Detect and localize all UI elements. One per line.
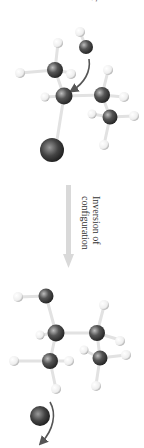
- reactant-bonds: [20, 32, 134, 145]
- reaction-arrow-head-icon: [63, 254, 74, 268]
- reaction-arrow-shaft: [66, 185, 71, 255]
- reaction-arrow: [63, 185, 74, 268]
- reaction-arrow-label: Inversion of configuration: [80, 196, 102, 250]
- hydrogen-atom: [51, 384, 61, 394]
- hydrogen-atom: [36, 331, 45, 340]
- hydrogen-atom: [115, 336, 125, 346]
- hydrogen-atom: [121, 350, 131, 360]
- molecule-diagram: [0, 0, 144, 448]
- central-carbon-atom: [48, 325, 65, 342]
- reactant-molecule: [15, 27, 139, 162]
- hydrogen-atom: [80, 346, 89, 355]
- carbon-atom: [94, 87, 110, 103]
- partial-caption-text: r: [90, 0, 101, 1]
- hydrogen-atom: [64, 356, 74, 366]
- product-bonds: [14, 296, 126, 389]
- central-carbon-atom: [56, 88, 73, 105]
- hydrogen-atom: [129, 111, 139, 121]
- hydrogen-atom: [99, 300, 109, 310]
- hydroxyl-hydrogen-atom: [13, 292, 23, 302]
- hydrogen-atom: [88, 110, 97, 119]
- leaving-group-atom: [40, 138, 64, 162]
- reaction-arrow-label-line2: configuration: [80, 196, 91, 250]
- hydrogen-atom: [99, 140, 109, 150]
- hydrogen-atom: [119, 92, 129, 102]
- carbon-atom: [103, 110, 118, 125]
- hydrogen-atom: [41, 93, 50, 102]
- hydroxyl-oxygen-atom: [39, 289, 54, 304]
- hydrogen-atom: [15, 68, 25, 78]
- carbon-atom: [89, 325, 105, 341]
- product-molecule: [9, 289, 131, 443]
- sn2-reaction-figure: r Inversion of configuration: [0, 0, 144, 448]
- hydrogen-atom: [91, 381, 101, 391]
- carbon-atom: [47, 62, 63, 78]
- hydrogen-atom: [9, 356, 19, 366]
- reaction-arrow-label-line1: Inversion of: [91, 196, 102, 250]
- nucleophile-oxygen-atom: [79, 40, 93, 54]
- hydrogen-atom: [53, 38, 63, 48]
- nucleophile-hydrogen-atom: [75, 27, 85, 37]
- hydrogen-atom: [103, 65, 113, 75]
- carbon-atom: [42, 353, 58, 369]
- departed-leaving-group-atom: [30, 406, 50, 426]
- hydrogen-atom: [66, 69, 76, 79]
- carbon-atom: [93, 351, 108, 366]
